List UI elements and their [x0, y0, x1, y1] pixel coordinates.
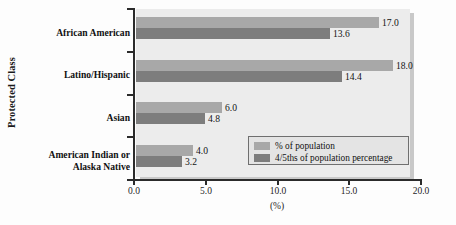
- bar-american-indian-population: [136, 145, 193, 156]
- x-axis-tick: [348, 179, 350, 185]
- legend-item-population: % of population: [254, 140, 404, 151]
- x-axis-tick: [205, 179, 207, 185]
- bar-asian-four-fifths: [136, 113, 205, 124]
- x-axis-tick-label: 0.0: [114, 186, 154, 196]
- y-axis-tick: [127, 94, 134, 96]
- legend-swatch-icon: [254, 142, 270, 150]
- bar-latino-hispanic-population: [136, 60, 393, 71]
- x-axis-tick: [277, 179, 279, 185]
- x-axis-title: (%): [257, 201, 297, 211]
- legend-label-population: % of population: [275, 141, 335, 151]
- legend: % of population 4/5ths of population per…: [248, 136, 409, 165]
- bar-label-african-american-four-fifths: 13.6: [330, 28, 350, 39]
- bar-label-asian-four-fifths: 4.8: [205, 113, 220, 124]
- bar-label-asian-population: 6.0: [222, 102, 237, 113]
- x-axis-tick-label: 15.0: [329, 186, 369, 196]
- bar-african-american-population: [136, 17, 379, 28]
- bar-label-african-american-population: 17.0: [379, 17, 399, 28]
- bar-label-latino-hispanic-population: 18.0: [393, 60, 413, 71]
- x-axis-tick-label: 20.0: [401, 186, 441, 196]
- y-axis-tick: [127, 51, 134, 53]
- y-axis-tick: [127, 8, 134, 10]
- bar-label-american-indian-population: 4.0: [193, 145, 208, 156]
- category-label-latino-hispanic: Latino/Hispanic: [18, 69, 130, 81]
- bar-latino-hispanic-four-fifths: [136, 71, 342, 82]
- x-axis-tick-label: 10.0: [258, 186, 298, 196]
- bar-label-american-indian-four-fifths: 3.2: [182, 156, 197, 167]
- y-axis-title-text: Protected Class: [6, 57, 17, 128]
- x-axis-tick: [133, 179, 135, 185]
- bar-label-latino-hispanic-four-fifths: 14.4: [342, 71, 362, 82]
- category-axis-labels: African American Latino/Hispanic Asian A…: [18, 9, 130, 181]
- bar-american-indian-four-fifths: [136, 156, 182, 167]
- bar-african-american-four-fifths: [136, 28, 330, 39]
- x-axis-tick-label: 5.0: [186, 186, 226, 196]
- category-label-american-indian-alaska-native: American Indian or Alaska Native: [18, 149, 130, 172]
- y-axis-tick: [127, 136, 134, 138]
- x-axis-tick: [420, 179, 422, 185]
- legend-item-four-fifths: 4/5ths of population percentage: [254, 152, 404, 163]
- legend-swatch-icon: [254, 154, 270, 162]
- legend-label-four-fifths: 4/5ths of population percentage: [275, 153, 392, 163]
- category-label-asian: Asian: [18, 112, 130, 124]
- category-label-african-american: African American: [18, 27, 130, 39]
- bar-chart-figure: Protected Class African American Latino/…: [0, 0, 456, 225]
- bar-asian-population: [136, 102, 222, 113]
